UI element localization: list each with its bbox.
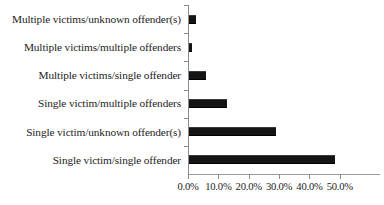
category-label: Multiple victims/unknown offender(s) [12, 13, 181, 25]
value-tick-label: 30.0% [266, 181, 292, 192]
value-tick-label: 0.0% [177, 181, 198, 192]
value-tick [340, 174, 341, 179]
category-axis: Multiple victims/unknown offender(s)Mult… [0, 5, 185, 174]
category-label-row: Multiple victims/unknown offender(s) [0, 5, 185, 33]
bar-row [189, 5, 196, 33]
bar [189, 155, 335, 164]
value-axis-baseline [188, 174, 380, 175]
category-label-row: Multiple victims/multiple offenders [0, 33, 185, 61]
category-label-row: Single victim/multiple offenders [0, 90, 185, 118]
category-tick [184, 118, 188, 119]
category-label: Single victim/single offender [53, 154, 181, 166]
category-label: Single victim/unknown offender(s) [26, 126, 181, 138]
category-tick [184, 146, 188, 147]
value-tick-label: 50.0% [327, 181, 353, 192]
plot-area [188, 5, 355, 174]
bar-chart: Multiple victims/unknown offender(s)Mult… [0, 0, 384, 205]
bar-row [189, 90, 227, 118]
category-label-row: Multiple victims/single offender [0, 61, 185, 89]
category-tick [184, 33, 188, 34]
category-tick [184, 90, 188, 91]
value-tick [218, 174, 219, 179]
category-label-row: Single victim/unknown offender(s) [0, 118, 185, 146]
bar-row [189, 33, 192, 61]
bar-row [189, 61, 206, 89]
bar-row [189, 118, 276, 146]
bar [189, 127, 276, 136]
category-tick [184, 61, 188, 62]
bar [189, 99, 227, 108]
category-label: Single victim/multiple offenders [38, 97, 181, 109]
value-tick [249, 174, 250, 179]
value-tick [188, 174, 189, 179]
bar [189, 43, 192, 52]
category-label: Multiple victims/multiple offenders [24, 41, 181, 53]
value-tick [309, 174, 310, 179]
value-tick-label: 40.0% [296, 181, 322, 192]
value-tick-label: 10.0% [205, 181, 231, 192]
category-label: Multiple victims/single offender [39, 69, 181, 81]
category-tick [184, 5, 188, 6]
bar-row [189, 146, 335, 174]
bar [189, 15, 196, 24]
bar [189, 71, 206, 80]
value-tick [279, 174, 280, 179]
category-label-row: Single victim/single offender [0, 146, 185, 174]
value-tick-label: 20.0% [236, 181, 262, 192]
